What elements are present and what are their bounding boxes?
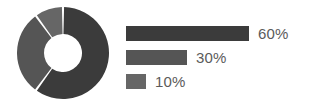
legend-label-10: 10%: [155, 74, 186, 89]
legend-item-30[interactable]: 30%: [126, 46, 227, 68]
donut-chart-figure: 60% 30% 10%: [0, 0, 311, 106]
legend-item-60[interactable]: 60%: [126, 22, 289, 44]
donut-slices: [17, 7, 109, 99]
donut-chart: [17, 7, 109, 99]
legend-bar-60: [126, 26, 249, 41]
legend-label-30: 30%: [196, 50, 227, 65]
donut-svg: [17, 7, 109, 99]
legend-label-60: 60%: [258, 26, 289, 41]
legend-bar-10: [126, 74, 146, 89]
legend: 60% 30% 10%: [126, 18, 306, 92]
legend-bar-30: [126, 50, 187, 65]
legend-item-10[interactable]: 10%: [126, 70, 186, 92]
